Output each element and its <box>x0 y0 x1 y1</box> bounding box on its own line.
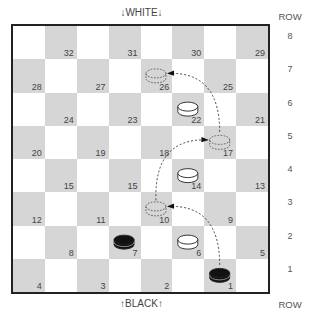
row-number-6: 6 <box>276 98 304 108</box>
square-number: 30 <box>191 48 201 58</box>
square-number: 7 <box>132 248 137 258</box>
square-number: 12 <box>32 215 42 225</box>
square-number: 27 <box>96 82 106 92</box>
row-number-2: 2 <box>276 231 304 241</box>
row-number-3: 3 <box>276 197 304 207</box>
row-number-4: 4 <box>276 164 304 174</box>
square-15: 15 <box>45 159 77 192</box>
black-side-label: ↑BLACK↑ <box>0 298 283 309</box>
square-number: 5 <box>260 248 265 258</box>
square-1: 1 <box>204 259 236 292</box>
square-number: 8 <box>69 248 74 258</box>
square-number: 28 <box>32 82 42 92</box>
square-26: 26 <box>141 59 173 92</box>
square-number: 6 <box>196 248 201 258</box>
square-32: 32 <box>45 26 77 59</box>
square-25: 25 <box>204 59 236 92</box>
square-number: 23 <box>127 115 137 125</box>
square-5: 5 <box>236 226 268 259</box>
square-10: 10 <box>141 192 173 225</box>
square-14: 14 <box>172 159 204 192</box>
square-20: 20 <box>13 126 45 159</box>
square-28: 28 <box>13 59 45 92</box>
square-number: 25 <box>223 82 233 92</box>
row-number-7: 7 <box>276 64 304 74</box>
row-number-8: 8 <box>276 31 304 41</box>
square-2: 2 <box>141 259 173 292</box>
square-number: 19 <box>96 148 106 158</box>
row-header-top: ROW <box>276 11 304 22</box>
row-number-1: 1 <box>276 264 304 274</box>
square-number: 15 <box>127 181 137 191</box>
checkers-board: 3231302928272625242322212019181715151413… <box>11 24 270 294</box>
square-29: 29 <box>236 26 268 59</box>
square-4: 4 <box>13 259 45 292</box>
square-24: 24 <box>45 93 77 126</box>
square-number: 15 <box>64 181 74 191</box>
square-22: 22 <box>172 93 204 126</box>
square-number: 32 <box>64 48 74 58</box>
square-13: 13 <box>236 159 268 192</box>
square-number: 1 <box>228 281 233 291</box>
square-number: 17 <box>223 148 233 158</box>
white-side-label: ↓WHITE↓ <box>0 7 283 18</box>
square-12: 12 <box>13 192 45 225</box>
square-number: 10 <box>159 215 169 225</box>
square-19: 19 <box>77 126 109 159</box>
square-number: 9 <box>228 215 233 225</box>
square-number: 31 <box>127 48 137 58</box>
square-17: 17 <box>204 126 236 159</box>
square-number: 21 <box>255 115 265 125</box>
square-27: 27 <box>77 59 109 92</box>
square-15: 15 <box>109 159 141 192</box>
square-8: 8 <box>45 226 77 259</box>
square-number: 26 <box>159 82 169 92</box>
square-11: 11 <box>77 192 109 225</box>
square-number: 11 <box>96 215 105 225</box>
row-header-bottom: ROW <box>276 299 304 310</box>
square-18: 18 <box>141 126 173 159</box>
square-3: 3 <box>77 259 109 292</box>
square-6: 6 <box>172 226 204 259</box>
square-number: 24 <box>64 115 74 125</box>
square-number: 14 <box>191 181 201 191</box>
square-31: 31 <box>109 26 141 59</box>
square-number: 20 <box>32 148 42 158</box>
square-number: 3 <box>101 281 106 291</box>
square-number: 18 <box>159 148 169 158</box>
square-9: 9 <box>204 192 236 225</box>
row-number-5: 5 <box>276 131 304 141</box>
square-number: 2 <box>164 281 169 291</box>
square-21: 21 <box>236 93 268 126</box>
square-number: 29 <box>255 48 265 58</box>
square-23: 23 <box>109 93 141 126</box>
square-7: 7 <box>109 226 141 259</box>
square-30: 30 <box>172 26 204 59</box>
square-number: 4 <box>37 281 42 291</box>
square-number: 22 <box>191 115 201 125</box>
square-number: 13 <box>255 181 265 191</box>
